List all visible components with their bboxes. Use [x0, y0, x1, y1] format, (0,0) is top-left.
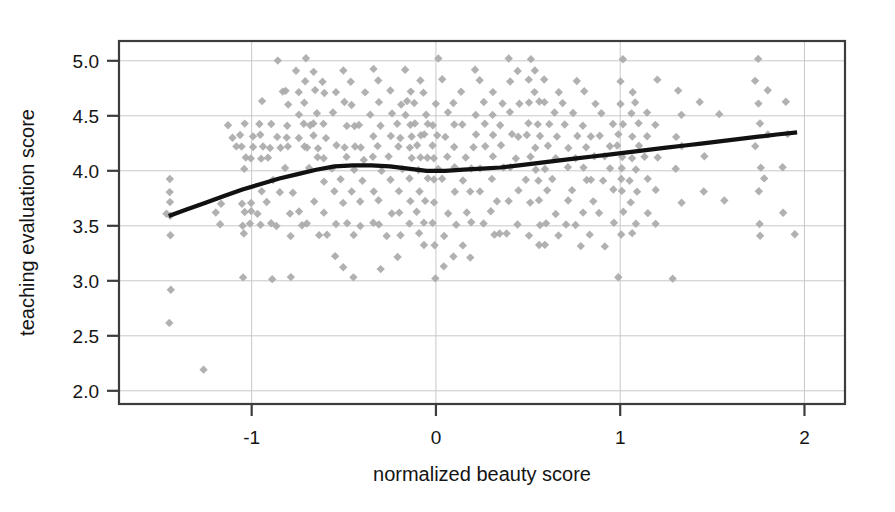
figure-background	[0, 0, 895, 512]
scatter-plot-figure: -1012 2.02.53.03.54.04.55.0 normalized b…	[0, 0, 895, 512]
y-tick-label: 4.0	[73, 161, 99, 182]
x-axis-title: normalized beauty score	[373, 463, 591, 485]
y-tick-label: 2.5	[73, 326, 99, 347]
y-tick-label: 3.0	[73, 271, 99, 292]
y-tick-label: 3.5	[73, 216, 99, 237]
y-tick-label: 2.0	[73, 381, 99, 402]
y-tick-label: 5.0	[73, 51, 99, 72]
x-tick-label: -1	[243, 427, 260, 448]
x-tick-label: 2	[799, 427, 810, 448]
x-tick-label: 1	[615, 427, 626, 448]
y-tick-label: 4.5	[73, 106, 99, 127]
plot-svg: -1012 2.02.53.03.54.04.55.0 normalized b…	[0, 0, 895, 512]
y-axis-title: teaching evaluation score	[16, 109, 38, 336]
x-tick-label: 0	[431, 427, 442, 448]
